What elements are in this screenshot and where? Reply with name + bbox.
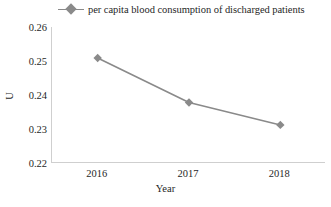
series-line — [98, 58, 281, 125]
series-markers — [93, 54, 284, 129]
x-axis-title: Year — [0, 182, 331, 195]
legend-item-label: per capita blood consumption of discharg… — [88, 4, 305, 15]
y-tick-label: 0.22 — [3, 158, 47, 169]
data-series-svg — [52, 27, 326, 163]
line-chart: per capita blood consumption of discharg… — [0, 0, 331, 207]
data-point-marker — [276, 121, 284, 129]
x-tick-label: 2017 — [158, 167, 218, 180]
data-point-marker — [93, 54, 101, 62]
y-tick-label: 0.24 — [3, 90, 47, 101]
data-point-marker — [185, 98, 193, 106]
y-axis-ticks: 0.26 0.25 0.24 0.23 0.22 — [0, 0, 47, 207]
x-tick-label: 2016 — [67, 167, 127, 180]
x-tick-label: 2018 — [249, 167, 309, 180]
y-tick-label: 0.23 — [3, 124, 47, 135]
chart-legend: per capita blood consumption of discharg… — [58, 4, 305, 15]
x-axis-ticks: 2016 2017 2018 — [51, 167, 325, 183]
y-tick-label: 0.25 — [3, 56, 47, 67]
plot-area — [51, 27, 325, 163]
y-tick-label: 0.26 — [3, 22, 47, 33]
diamond-marker-icon — [58, 5, 84, 15]
